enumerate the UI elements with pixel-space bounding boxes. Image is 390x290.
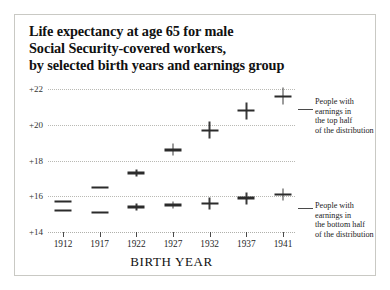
y-axis-tick-label: +16 xyxy=(29,191,43,201)
x-axis-tick-label: 1932 xyxy=(200,239,219,249)
annotation-bottom-half: People withearnings inthe bottom halfof … xyxy=(315,201,390,239)
leader-line-top xyxy=(298,109,313,110)
gridline-+20 xyxy=(48,125,295,126)
x-axis-tick-label: 1941 xyxy=(274,239,293,249)
x-axis-tick-label: 1917 xyxy=(90,239,109,249)
annotation-line: of the distribution xyxy=(315,230,390,240)
data-marker xyxy=(91,179,108,196)
x-axis-tick xyxy=(210,232,211,237)
data-marker xyxy=(128,199,145,216)
x-axis-tick xyxy=(173,232,174,237)
x-axis-tick-label: 1922 xyxy=(127,239,146,249)
data-marker xyxy=(128,165,145,182)
chart-title-block: Life expectancy at age 65 for male Socia… xyxy=(29,23,359,74)
x-axis-tick-label: 1927 xyxy=(164,239,183,249)
x-axis-tick xyxy=(100,232,101,237)
x-axis-tick xyxy=(283,232,284,237)
data-marker xyxy=(91,204,108,221)
data-marker xyxy=(165,197,182,214)
page-title-line-2: Social Security-covered workers, xyxy=(29,40,359,57)
chart-figure: Life expectancy at age 65 for male Socia… xyxy=(14,14,376,276)
data-marker xyxy=(55,202,72,219)
data-marker xyxy=(238,102,255,119)
y-axis-tick-label: +22 xyxy=(29,84,43,94)
annotation-line: the bottom half xyxy=(315,220,390,230)
x-axis-tick-label: 1937 xyxy=(237,239,256,249)
y-axis-tick-label: +18 xyxy=(29,156,43,166)
annotation-line: People with xyxy=(315,97,390,107)
gridline-+14 xyxy=(48,232,295,233)
annotation-line: People with xyxy=(315,201,390,211)
page-title-line-3: by selected birth years and earnings gro… xyxy=(29,57,359,74)
leader-line-bottom xyxy=(298,208,313,209)
annotation-top-half: People withearnings inthe top halfof the… xyxy=(315,97,390,135)
y-axis-tick-label: +14 xyxy=(29,227,43,237)
page-title-line-1: Life expectancy at age 65 for male xyxy=(29,23,359,40)
y-axis-tick-label: +20 xyxy=(29,120,43,130)
data-marker xyxy=(165,141,182,158)
x-axis-tick xyxy=(246,232,247,237)
data-marker xyxy=(238,190,255,207)
plot-area: +14+16+18+20+22 191219171922192719321937… xyxy=(48,75,295,232)
data-marker xyxy=(275,88,292,105)
x-axis-tick xyxy=(63,232,64,237)
gridline-+18 xyxy=(48,161,295,162)
annotation-line: the top half xyxy=(315,116,390,126)
annotation-line: earnings in xyxy=(315,211,390,221)
x-axis-title: BIRTH YEAR xyxy=(48,254,295,270)
x-axis-tick xyxy=(136,232,137,237)
annotation-line: earnings in xyxy=(315,107,390,117)
data-marker xyxy=(201,122,218,139)
annotation-line: of the distribution xyxy=(315,126,390,136)
data-marker xyxy=(201,195,218,212)
gridline-+22 xyxy=(48,89,295,90)
x-axis-tick-label: 1912 xyxy=(54,239,73,249)
data-marker xyxy=(275,186,292,203)
